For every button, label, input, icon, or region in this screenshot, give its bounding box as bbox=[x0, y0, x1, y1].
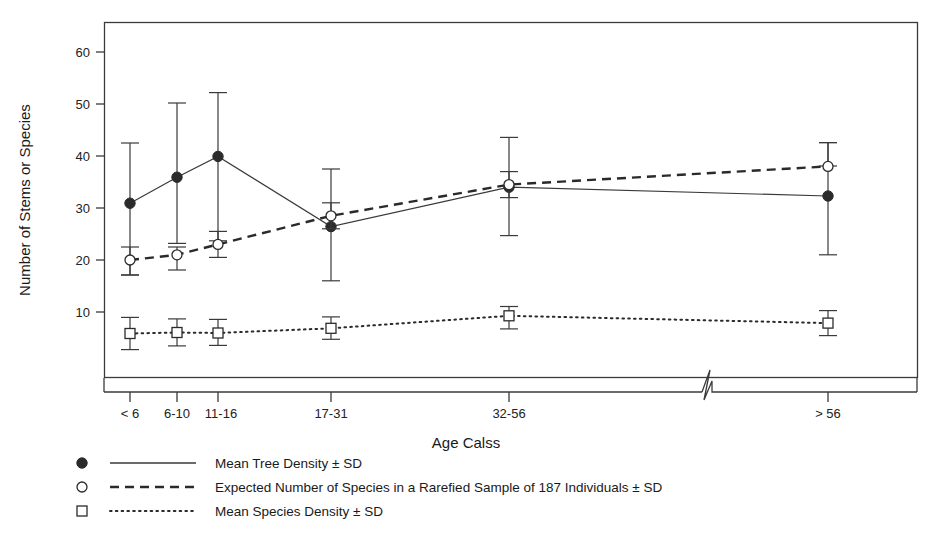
marker-tree-0 bbox=[125, 198, 135, 208]
y-tick-label-10: 10 bbox=[76, 305, 90, 320]
x-tick-label-0: < 6 bbox=[121, 406, 139, 421]
y-tick-label-60: 60 bbox=[76, 45, 90, 60]
marker-exp-1 bbox=[172, 250, 182, 260]
legend-marker-open-circle-icon bbox=[77, 482, 87, 492]
legend-label-0: Mean Tree Density ± SD bbox=[215, 456, 362, 471]
x-tick-label-5: > 56 bbox=[815, 406, 841, 421]
marker-tree-2 bbox=[213, 151, 223, 161]
marker-sp-2 bbox=[213, 328, 223, 338]
marker-exp-4 bbox=[504, 180, 514, 190]
x-tick-label-1: 6-10 bbox=[164, 406, 190, 421]
chart-svg: 60 50 40 30 20 10 Number of Stems or Spe… bbox=[0, 0, 933, 538]
marker-sp-0 bbox=[125, 329, 135, 339]
chart-background bbox=[0, 0, 933, 538]
y-tick-label-40: 40 bbox=[76, 149, 90, 164]
y-tick-label-50: 50 bbox=[76, 97, 90, 112]
marker-sp-1 bbox=[172, 328, 182, 338]
marker-exp-3 bbox=[326, 211, 336, 221]
x-tick-label-2: 11-16 bbox=[205, 406, 237, 421]
marker-sp-4 bbox=[504, 311, 514, 321]
marker-tree-1 bbox=[172, 172, 182, 182]
marker-sp-5 bbox=[823, 318, 833, 328]
x-tick-label-3: 17-31 bbox=[314, 406, 347, 421]
x-tick-label-4: 32-56 bbox=[492, 406, 525, 421]
marker-tree-5 bbox=[823, 191, 833, 201]
legend-marker-filled-circle-icon bbox=[77, 458, 87, 468]
marker-exp-2 bbox=[213, 239, 223, 249]
y-tick-label-30: 30 bbox=[76, 201, 90, 216]
x-axis-title: Age Calss bbox=[432, 434, 500, 451]
marker-exp-5 bbox=[823, 161, 833, 171]
y-tick-label-20: 20 bbox=[76, 253, 90, 268]
marker-exp-0 bbox=[125, 255, 135, 265]
y-axis-title: Number of Stems or Species bbox=[16, 104, 33, 296]
legend-marker-open-square-icon bbox=[77, 506, 87, 516]
legend-label-2: Mean Species Density ± SD bbox=[215, 504, 383, 519]
figure-container: 60 50 40 30 20 10 Number of Stems or Spe… bbox=[0, 0, 933, 538]
marker-sp-3 bbox=[326, 323, 336, 333]
legend-label-1: Expected Number of Species in a Rarefied… bbox=[215, 480, 662, 495]
